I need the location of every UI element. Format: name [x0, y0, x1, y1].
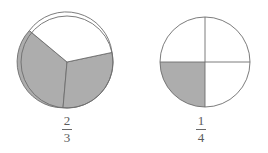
fraction-denominator: 3 — [62, 131, 73, 145]
thirds-fraction-label: 2 3 — [0, 114, 134, 145]
quarters-circle-graphic — [134, 0, 268, 120]
fraction-circle-quarters: 1 4 — [134, 0, 268, 153]
fraction-circles-figure: 2 3 1 4 — [0, 0, 268, 153]
fraction-denominator: 4 — [196, 131, 207, 145]
fraction-one-quarter: 1 4 — [196, 114, 207, 145]
fraction-numerator: 1 — [196, 114, 207, 128]
quarters-fraction-label: 1 4 — [134, 114, 268, 145]
fraction-numerator: 2 — [62, 114, 73, 128]
fraction-two-thirds: 2 3 — [62, 114, 73, 145]
bottom-left-quadrant-shaded — [160, 62, 205, 107]
thirds-circle-graphic — [0, 0, 134, 120]
fraction-circle-thirds: 2 3 — [0, 0, 134, 153]
